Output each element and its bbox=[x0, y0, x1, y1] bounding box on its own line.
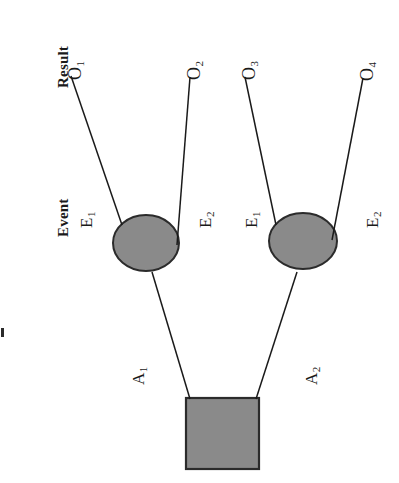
event-branch-e2b-line bbox=[332, 78, 363, 240]
action-branch-a2-line bbox=[256, 272, 297, 399]
event-branch-e1a-line bbox=[71, 76, 122, 225]
root-decision-square bbox=[186, 398, 259, 469]
event-branch-e2a-line bbox=[177, 77, 190, 245]
event-branch-e1b-line bbox=[245, 77, 276, 225]
chance-node-1-ellipse bbox=[113, 215, 179, 271]
chance-node-2-ellipse bbox=[269, 213, 337, 269]
action-branch-a1-line bbox=[152, 272, 190, 399]
page-speck bbox=[1, 328, 4, 337]
decision-tree-figure: Result Event O1 O2 O3 O4 E1 E2 E1 E2 A1 … bbox=[0, 0, 399, 483]
decision-tree-canvas bbox=[0, 0, 399, 483]
